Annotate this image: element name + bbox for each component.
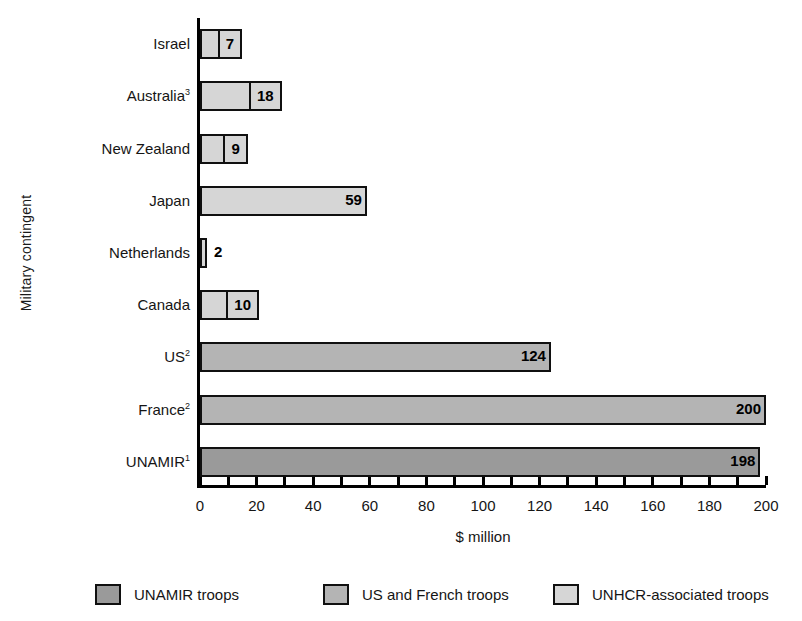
x-axis-tick [651,476,654,485]
category-label: Japan [20,193,190,208]
x-axis-tick [538,476,541,485]
x-axis-tick [453,476,456,485]
x-axis-tick-label: 20 [227,497,287,514]
bar-row: 59 [200,186,766,216]
category-label-footnote: 2 [185,348,190,358]
plot-area: 718959210124200198 [200,18,766,488]
category-label-text: Canada [137,296,190,313]
x-axis-tick [397,476,400,485]
category-label-text: UNAMIR [126,453,185,470]
bar-value-label: 18 [249,81,282,111]
x-axis-tick [595,476,598,485]
legend-label: UNHCR-associated troops [592,586,769,603]
bar[interactable] [200,134,225,164]
x-axis-tick [283,476,286,485]
x-axis-tick-label: 80 [396,497,456,514]
bar[interactable] [200,290,228,320]
legend-label: UNAMIR troops [134,586,239,603]
legend-swatch-icon [95,584,121,605]
x-axis-tick-label: 0 [170,497,230,514]
x-axis-tick [623,476,626,485]
category-label: Netherlands [20,245,190,260]
bar-value-label: 59 [200,186,367,216]
x-axis-tick [340,476,343,485]
x-axis-tick-label: 140 [566,497,626,514]
bar[interactable] [200,81,251,111]
x-axis-tick-label: 100 [453,497,513,514]
legend-item[interactable]: US and French troops [323,580,509,608]
x-axis-tick-label: 180 [679,497,739,514]
legend-swatch-icon [553,584,579,605]
bar-row: 9 [200,134,766,164]
legend-item[interactable]: UNAMIR troops [95,580,239,608]
bar-row: 124 [200,342,766,372]
category-label-text: Australia [127,87,185,104]
x-axis-tick-label: 200 [736,497,796,514]
x-axis-tick [736,476,739,485]
x-axis-tick [255,476,258,485]
x-axis-tick-label: 40 [283,497,343,514]
category-label-text: Israel [153,35,190,52]
category-label: France2 [20,402,190,417]
x-axis-tick [482,476,485,485]
category-label-footnote: 1 [185,453,190,463]
bar-row: 198 [200,447,766,477]
category-label-footnote: 2 [185,401,190,411]
category-label-text: US [164,348,185,365]
chart-legend: UNAMIR troopsUS and French troopsUNHCR-a… [0,580,802,610]
bar-chart: Military contingent IsraelAustralia3New … [0,0,802,621]
bar-row: 7 [200,29,766,59]
category-label: US2 [20,349,190,364]
bar-value-label: 7 [218,29,242,59]
x-axis-tick [312,476,315,485]
bar-value-label: 200 [200,395,766,425]
category-label: UNAMIR1 [20,454,190,469]
category-label: Australia3 [20,88,190,103]
x-axis-tick [199,476,202,485]
x-axis-tick [425,476,428,485]
category-label-column: IsraelAustralia3New ZealandJapanNetherla… [20,18,190,488]
x-axis-tick [765,476,768,485]
category-label-text: Netherlands [109,244,190,261]
x-axis-tick [368,476,371,485]
x-axis-title: $ million [200,528,766,545]
legend-item[interactable]: UNHCR-associated troops [553,580,769,608]
bar-row: 10 [200,290,766,320]
category-label-text: Japan [149,192,190,209]
category-label-footnote: 3 [185,87,190,97]
x-axis-tick [510,476,513,485]
legend-label: US and French troops [362,586,509,603]
x-axis-tick [566,476,569,485]
bar-value-label: 10 [226,290,259,320]
x-axis-tick-label: 60 [340,497,400,514]
category-label-text: France [138,401,185,418]
category-label-text: New Zealand [102,140,190,157]
legend-swatch-icon [323,584,349,605]
x-axis-tick [708,476,711,485]
bar-value-label: 198 [200,447,760,477]
bar-value-label: 2 [207,238,227,268]
bar-row: 200 [200,395,766,425]
x-axis-line [197,485,766,488]
category-label: Israel [20,36,190,51]
x-axis-tick-label: 160 [623,497,683,514]
bar-value-label: 124 [200,342,551,372]
bar-value-label: 9 [223,134,247,164]
category-label: New Zealand [20,141,190,156]
bar-row: 2 [200,238,766,268]
category-label: Canada [20,297,190,312]
bar-row: 18 [200,81,766,111]
x-axis-tick [680,476,683,485]
x-axis-tick-label: 120 [510,497,570,514]
bar[interactable] [200,238,207,268]
x-axis-tick [227,476,230,485]
